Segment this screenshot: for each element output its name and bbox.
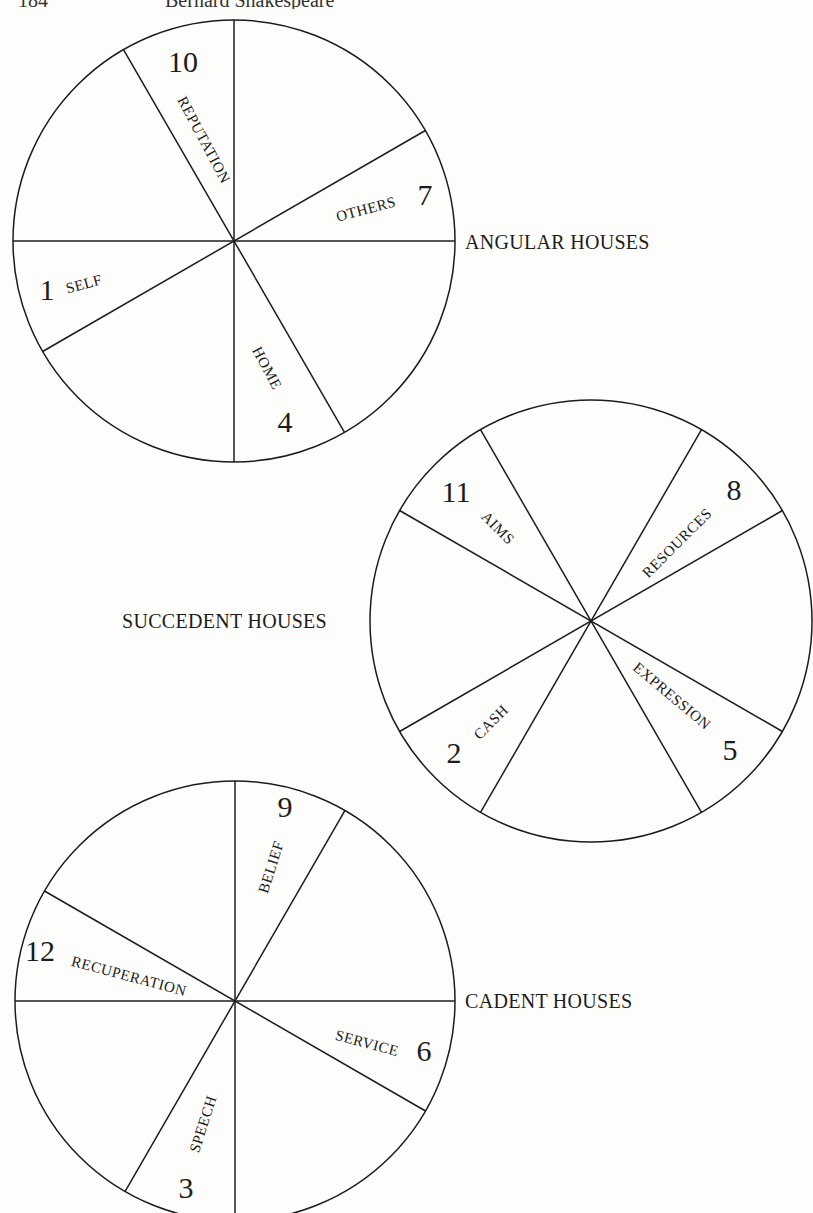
house-7: 7OTHERS	[334, 178, 432, 225]
house-number: 9	[278, 790, 293, 823]
house-1: 1SELF	[40, 271, 104, 306]
house-name: OTHERS	[334, 193, 397, 224]
house-number: 12	[25, 934, 55, 967]
group-label-angular: ANGULAR HOUSES	[465, 231, 650, 253]
group-label-cadent: CADENT HOUSES	[465, 990, 632, 1012]
house-name: EXPRESSION	[630, 659, 714, 733]
house-wheels-diagram: ANGULAR HOUSES 10REPUTATION7OTHERS1SELF4…	[0, 0, 813, 1213]
house-number: 11	[442, 475, 471, 508]
wheel-succedent: SUCCEDENT HOUSES 11AIMS8RESOURCES2CASH5E…	[122, 400, 812, 842]
house-8: 8RESOURCES	[639, 473, 741, 581]
house-4: 4HOME	[249, 344, 292, 438]
house-number: 1	[40, 273, 55, 306]
house-name: RECUPERATION	[70, 953, 189, 999]
house-name: BELIEF	[255, 839, 287, 895]
house-number: 10	[168, 45, 198, 78]
house-number: 2	[447, 736, 462, 769]
house-name: SELF	[64, 271, 104, 296]
house-number: 6	[417, 1034, 432, 1067]
wheel-angular: ANGULAR HOUSES 10REPUTATION7OTHERS1SELF4…	[13, 20, 650, 462]
house-6: 6SERVICE	[334, 1027, 432, 1067]
house-10: 10REPUTATION	[168, 45, 234, 186]
house-2: 2CASH	[447, 701, 512, 769]
house-name: REPUTATION	[174, 94, 233, 187]
house-number: 8	[727, 473, 742, 506]
house-name: CASH	[470, 701, 511, 742]
house-name: AIMS	[478, 508, 517, 547]
house-number: 3	[179, 1171, 194, 1204]
house-9: 9BELIEF	[255, 790, 292, 895]
house-name: RESOURCES	[639, 505, 715, 581]
house-3: 3SPEECH	[179, 1094, 220, 1204]
wheel-cadent: CADENT HOUSES 9BELIEF12RECUPERATION6SERV…	[15, 781, 632, 1213]
house-name: SPEECH	[186, 1094, 219, 1155]
wheel-spokes	[13, 20, 455, 462]
group-label-succedent: SUCCEDENT HOUSES	[122, 610, 327, 632]
house-number: 4	[278, 405, 293, 438]
house-name: SERVICE	[334, 1027, 401, 1059]
wheel-spokes	[15, 781, 455, 1213]
house-number: 7	[418, 178, 433, 211]
house-name: HOME	[249, 344, 285, 392]
house-11: 11AIMS	[442, 475, 518, 548]
house-12: 12RECUPERATION	[25, 934, 188, 999]
house-number: 5	[723, 733, 738, 766]
